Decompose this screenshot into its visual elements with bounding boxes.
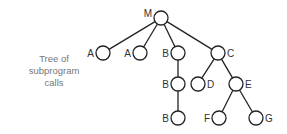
call-tree: MAABCBDEBFG: [0, 0, 287, 134]
node-circle: [171, 77, 185, 91]
node-circle: [171, 111, 185, 125]
edge-C-E: [222, 59, 233, 78]
node-G: G: [249, 111, 273, 125]
node-label: B: [162, 113, 169, 124]
edge-E-F: [222, 90, 233, 111]
node-B1: B: [162, 46, 185, 60]
node-B3: B: [162, 111, 185, 125]
node-label: A: [124, 48, 131, 59]
node-circle: [171, 46, 185, 60]
node-circle: [96, 46, 110, 60]
node-E: E: [229, 77, 252, 91]
node-circle: [191, 77, 205, 91]
node-label: G: [265, 113, 273, 124]
node-circle: [229, 77, 243, 91]
node-A2: A: [124, 46, 147, 60]
edge-M-A1: [109, 22, 155, 50]
node-F: F: [204, 111, 226, 125]
node-label: B: [162, 79, 169, 90]
node-M: M: [144, 8, 168, 25]
edge-M-B1: [164, 24, 175, 46]
edge-E-G: [240, 90, 253, 112]
node-label: B: [162, 48, 169, 59]
node-circle: [249, 111, 263, 125]
edge-C-D: [202, 59, 214, 78]
node-D: D: [191, 77, 214, 91]
node-label: A: [87, 48, 94, 59]
node-circle: [211, 46, 225, 60]
node-label: C: [227, 48, 234, 59]
tree-nodes: MAABCBDEBFG: [87, 8, 273, 125]
node-label: E: [245, 79, 252, 90]
node-circle: [154, 11, 168, 25]
node-label: F: [204, 113, 210, 124]
node-C: C: [211, 46, 234, 60]
node-label: M: [144, 8, 152, 19]
node-A1: A: [87, 46, 110, 60]
node-label: D: [207, 79, 214, 90]
node-B2: B: [162, 77, 185, 91]
node-circle: [133, 46, 147, 60]
tree-edges: [109, 22, 252, 112]
node-circle: [212, 111, 226, 125]
